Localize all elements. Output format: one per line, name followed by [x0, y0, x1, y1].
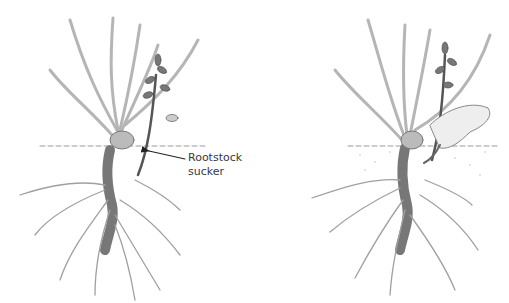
right-rose-plant-sucker-removal: [312, 20, 500, 295]
left-rose-plant: [20, 18, 205, 300]
illustration: Rootstock sucker: [0, 0, 509, 303]
label-line-2: sucker: [188, 165, 242, 179]
rootstock-sucker-label: Rootstock sucker: [188, 151, 242, 179]
rose-sucker-illustration: [0, 0, 509, 303]
label-line-1: Rootstock: [188, 151, 242, 165]
